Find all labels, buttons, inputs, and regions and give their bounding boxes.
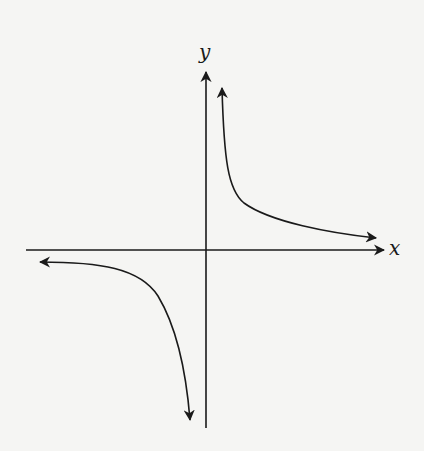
curve-branch-quadrant-1 [222,88,376,238]
graph-svg [0,0,424,451]
y-axis-label: y [199,42,210,62]
x-axis-label: x [389,238,400,258]
curve-branch-quadrant-3 [40,262,190,420]
hyperbola-graph: y x [0,0,424,451]
